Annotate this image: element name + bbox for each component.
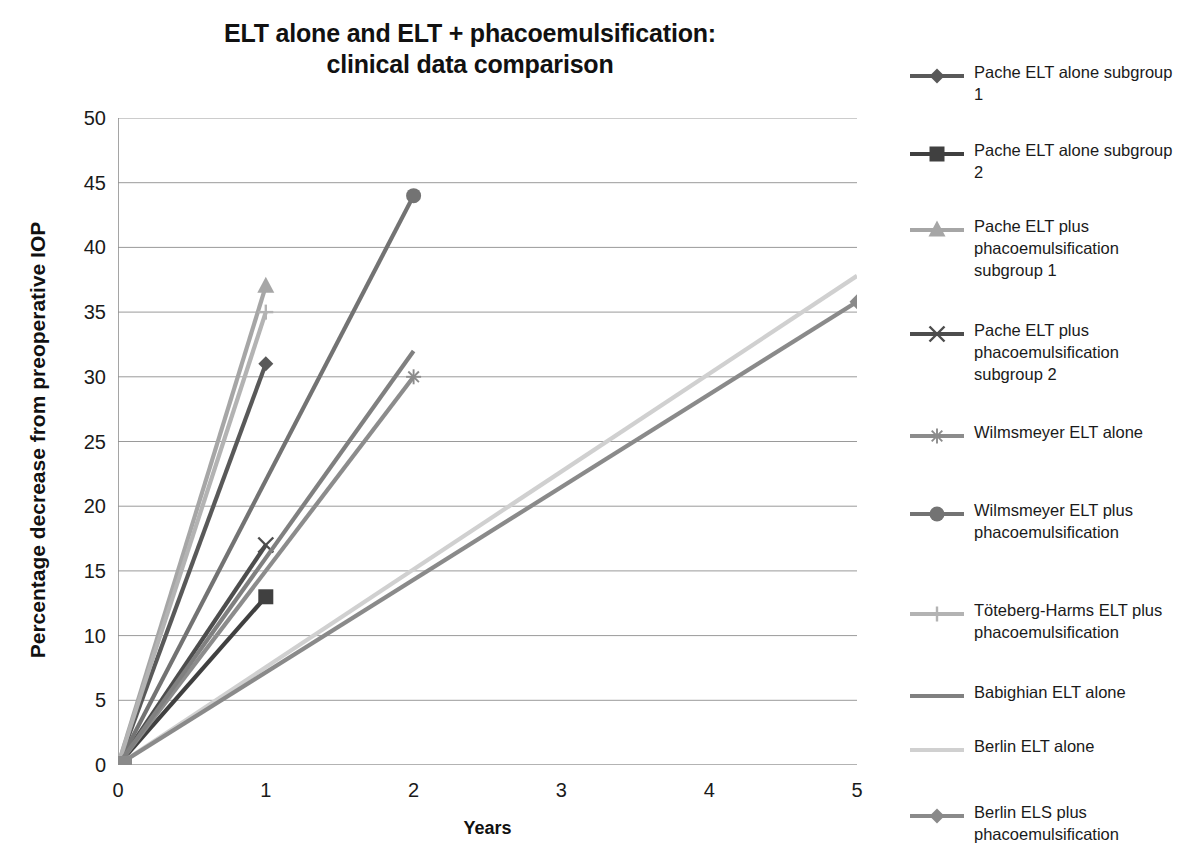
- square-marker: [258, 589, 273, 604]
- asterisk-marker: [908, 425, 966, 447]
- legend-item-label: Töteberg-Harms ELT plus phacoemulsificat…: [974, 600, 1174, 644]
- diamond-marker: [908, 65, 966, 87]
- series-line: [118, 364, 266, 765]
- title-line-1: ELT alone and ELT + phacoemulsification:: [120, 18, 820, 49]
- x-tick-label: 5: [837, 779, 877, 802]
- series-8: [118, 351, 414, 765]
- legend-item[interactable]: Berlin ELT alone: [908, 736, 1186, 761]
- legend-swatch-icon: [908, 143, 966, 165]
- x-tick-label: 1: [246, 779, 286, 802]
- x-axis-title: Years: [118, 818, 857, 839]
- y-axis-tick-labels: 05101520253035404550: [44, 0, 106, 856]
- series-line: [118, 276, 857, 765]
- legend-item[interactable]: Babighian ELT alone: [908, 682, 1186, 707]
- legend-marker-group: [930, 147, 945, 162]
- circle-marker: [908, 503, 966, 525]
- diamond-marker: [930, 809, 945, 824]
- y-tick-label: 15: [52, 559, 106, 582]
- series-6: [118, 188, 421, 765]
- legend-item[interactable]: Pache ELT alone subgroup 2: [908, 140, 1186, 184]
- series-5: [118, 369, 421, 765]
- legend-item[interactable]: Wilmsmeyer ELT alone: [908, 422, 1186, 447]
- y-tick-label: 25: [52, 430, 106, 453]
- x-tick-label: 3: [541, 779, 581, 802]
- legend-item-label: Berlin ELS plus phacoemulsification: [974, 802, 1174, 846]
- diamond-marker: [908, 805, 966, 827]
- x-axis-tick-labels: 012345: [0, 779, 900, 809]
- legend-marker-group: [930, 607, 945, 622]
- legend-swatch-icon: [908, 739, 966, 761]
- plot-area: [118, 118, 857, 765]
- chart-legend: Pache ELT alone subgroup 1Pache ELT alon…: [908, 62, 1186, 852]
- legend-swatch-icon: [908, 603, 966, 625]
- legend-swatch-icon: [908, 65, 966, 87]
- series-1: [118, 356, 273, 765]
- y-tick-label: 50: [52, 107, 106, 130]
- legend-item-label: Berlin ELT alone: [974, 736, 1094, 758]
- x-tick-label: 2: [394, 779, 434, 802]
- legend-item-label: Wilmsmeyer ELT plus phacoemulsification: [974, 500, 1174, 544]
- y-tick-label: 40: [52, 236, 106, 259]
- y-tick-label: 35: [52, 301, 106, 324]
- legend-item[interactable]: Wilmsmeyer ELT plus phacoemulsification: [908, 500, 1186, 544]
- series-7: [118, 305, 273, 765]
- legend-marker-group: [930, 507, 945, 522]
- x-marker: [908, 323, 966, 345]
- legend-item[interactable]: Töteberg-Harms ELT plus phacoemulsificat…: [908, 600, 1186, 644]
- y-tick-label: 5: [52, 689, 106, 712]
- triangle-marker: [908, 219, 966, 241]
- series-line: [118, 351, 414, 765]
- diamond-marker: [258, 356, 273, 371]
- legend-item[interactable]: Pache ELT alone subgroup 1: [908, 62, 1186, 106]
- y-tick-label: 30: [52, 365, 106, 388]
- legend-item-label: Wilmsmeyer ELT alone: [974, 422, 1143, 444]
- square-marker: [930, 147, 945, 162]
- series-10: [118, 294, 857, 765]
- legend-swatch-icon: [908, 323, 966, 345]
- origin-marker-cluster: [118, 756, 132, 765]
- legend-item-label: Babighian ELT alone: [974, 682, 1126, 704]
- y-tick-label: 0: [52, 754, 106, 777]
- x-tick-label: 4: [689, 779, 729, 802]
- page-title: ELT alone and ELT + phacoemulsification:…: [120, 18, 820, 79]
- legend-swatch-icon: [908, 219, 966, 241]
- title-line-2: clinical data comparison: [120, 49, 820, 80]
- series-9: [118, 276, 857, 765]
- legend-swatch-icon: [908, 805, 966, 827]
- square-marker: [908, 143, 966, 165]
- legend-swatch-icon: [908, 425, 966, 447]
- x-tick-label: 0: [98, 779, 138, 802]
- legend-item[interactable]: Pache ELT plus phacoemulsification subgr…: [908, 320, 1186, 385]
- legend-item-label: Pache ELT plus phacoemulsification subgr…: [974, 216, 1174, 281]
- line-only: [908, 739, 966, 761]
- diamond-marker: [930, 69, 945, 84]
- y-tick-label: 10: [52, 624, 106, 647]
- series-line: [118, 312, 266, 765]
- y-tick-label: 45: [52, 171, 106, 194]
- legend-marker-group: [930, 429, 945, 444]
- series-line: [118, 302, 857, 765]
- triangle-marker: [257, 277, 274, 293]
- legend-item-label: Pache ELT plus phacoemulsification subgr…: [974, 320, 1174, 385]
- circle-marker: [406, 188, 421, 203]
- legend-marker-group: [930, 809, 945, 824]
- legend-item[interactable]: Berlin ELS plus phacoemulsification: [908, 802, 1186, 846]
- y-tick-label: 20: [52, 495, 106, 518]
- legend-item-label: Pache ELT alone subgroup 1: [974, 62, 1174, 106]
- chart-page: ELT alone and ELT + phacoemulsification:…: [0, 0, 1192, 856]
- legend-item[interactable]: Pache ELT plus phacoemulsification subgr…: [908, 216, 1186, 281]
- plus-marker: [908, 603, 966, 625]
- line-only: [908, 685, 966, 707]
- legend-marker-group: [930, 69, 945, 84]
- legend-swatch-icon: [908, 503, 966, 525]
- circle-marker: [930, 507, 945, 522]
- chart-canvas: [118, 118, 857, 765]
- legend-item-label: Pache ELT alone subgroup 2: [974, 140, 1174, 184]
- legend-swatch-icon: [908, 685, 966, 707]
